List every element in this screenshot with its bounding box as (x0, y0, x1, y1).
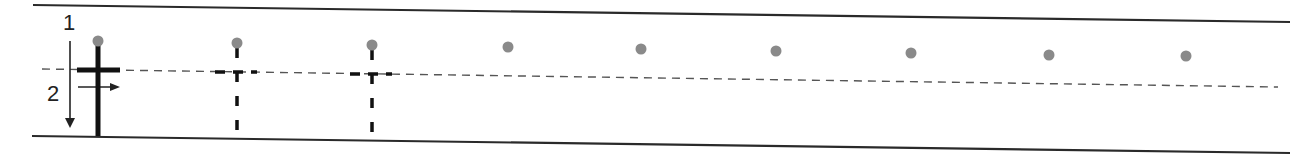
start-dot-icon (1181, 51, 1192, 62)
trace-letter-t-2 (350, 50, 392, 139)
arrow-down-icon (65, 118, 75, 128)
stroke-label-1: 1 (63, 10, 75, 35)
start-dot-icon (367, 40, 378, 51)
stroke-label-2: 2 (47, 81, 59, 106)
start-dot-icon (771, 46, 782, 57)
start-dot-icon (1044, 50, 1055, 61)
trace-letter-t-1 (215, 48, 257, 137)
start-dot-icon (906, 48, 917, 59)
bottom-rule-line (32, 136, 1290, 153)
model-letter-t (77, 44, 120, 136)
dashed-midline (42, 69, 1278, 87)
start-dot-icon (232, 38, 243, 49)
starting-dots (93, 36, 1192, 62)
start-dot-icon (636, 44, 647, 55)
handwriting-practice-row: 1 2 (0, 0, 1315, 162)
top-rule-line (33, 5, 1290, 22)
start-dot-icon (503, 42, 514, 53)
start-dot-icon (93, 36, 104, 47)
arrow-right-icon (110, 83, 120, 91)
